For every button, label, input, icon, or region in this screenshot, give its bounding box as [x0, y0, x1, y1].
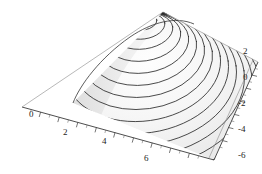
x-tick-label-4: 4 — [102, 137, 107, 146]
surface-plot-figure: 0 2 4 6 2 0 -2 -4 -6 — [0, 0, 262, 174]
y-tick-label-2: 2 — [243, 47, 248, 56]
y-tick-label-minus-2: -2 — [238, 99, 246, 108]
surface-plot-canvas — [0, 0, 262, 174]
surface-mesh — [73, 21, 236, 160]
y-tick-label-minus-4: -4 — [238, 125, 246, 134]
x-tick-label-0: 0 — [29, 110, 34, 119]
x-tick-label-2: 2 — [63, 128, 68, 137]
y-tick-label-minus-6: -6 — [238, 151, 246, 160]
y-tick-label-0: 0 — [243, 73, 248, 82]
x-tick-label-6: 6 — [144, 154, 149, 163]
